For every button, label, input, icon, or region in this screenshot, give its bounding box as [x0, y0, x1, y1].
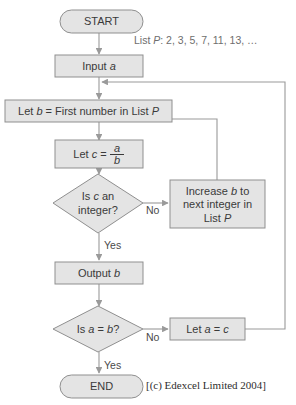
edge-label-yes-integer: Yes [104, 239, 121, 251]
edge-label-yes-equal: Yes [104, 359, 121, 371]
node-end-label: END [90, 380, 113, 392]
node-let-a-eq-c-label: Let a = c [186, 322, 229, 334]
copyright-credit: [(c) Edexcel Limited 2004] [146, 379, 266, 391]
annotation-list-p: List P: 2, 3, 5, 7, 11, 13, … [134, 34, 258, 46]
node-let-b-label: Let b = First number in List P [18, 104, 160, 116]
edge-label-no-integer: No [146, 204, 160, 216]
node-output-b-label: Output b [78, 266, 120, 278]
flowchart-canvas: START Input a Let b = First number in Li… [0, 0, 296, 405]
edge-label-no-equal: No [146, 331, 160, 343]
node-start-label: START [84, 15, 119, 27]
node-increase-b-line3: List P [204, 212, 232, 224]
node-decision-is-a-eq-b-label: Is a = b? [77, 322, 120, 334]
node-let-c-denominator: b [114, 154, 120, 166]
node-decision-is-c-integer-line2: integer? [78, 204, 118, 216]
node-decision-is-c-integer-line1: Is c an [82, 190, 114, 202]
node-increase-b-line2: next integer in [183, 198, 252, 210]
node-input-a-label: Input a [82, 59, 116, 71]
node-let-c-numerator: a [114, 142, 120, 154]
flowchart-page: START Input a Let b = First number in Li… [0, 0, 296, 405]
node-increase-b-line1: Increase b to [186, 185, 250, 197]
node-let-c-prefix: Let c = [73, 147, 106, 159]
